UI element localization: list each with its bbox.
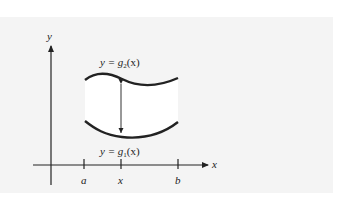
y-axis-label: y — [46, 30, 52, 42]
tick-label-x: x — [117, 174, 123, 186]
tick-label-a: a — [81, 174, 87, 186]
tick-label-b: b — [175, 174, 181, 186]
upper-label-arg: (x) — [127, 56, 140, 69]
upper-curve-label: y = g2(x) — [99, 56, 140, 70]
lower-label-arg: (x) — [127, 145, 140, 158]
lower-curve-label: y = g1(x) — [99, 145, 140, 159]
x-axis-label: x — [211, 158, 217, 170]
lower-label-prefix: y = — [99, 145, 118, 157]
upper-label-prefix: y = — [99, 56, 118, 68]
region-diagram: y x a x b y = g2(x) y = g1(x) — [0, 0, 349, 206]
